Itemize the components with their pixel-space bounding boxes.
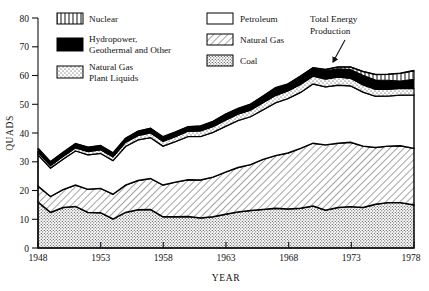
y-tick-label-30: 30 <box>20 157 30 167</box>
legend-label-nuclear: Nuclear <box>89 14 118 24</box>
annotation-line1: Total Energy <box>310 14 358 24</box>
x-tick-label-1973: 1973 <box>342 253 361 263</box>
x-tick-label-1948: 1948 <box>29 253 48 263</box>
x-tick-label-1958: 1958 <box>154 253 173 263</box>
legend-swatch-nuclear <box>57 13 83 24</box>
x-tick-label-1968: 1968 <box>279 253 298 263</box>
y-tick-label-70: 70 <box>20 42 30 52</box>
x-tick-label-1963: 1963 <box>217 253 236 263</box>
energy-production-area-chart: 80 70 60 50 40 30 20 10 0 QUADS 1948 195… <box>0 0 429 291</box>
y-axis-title: QUADS <box>5 115 15 151</box>
chart-figure: 80 70 60 50 40 30 20 10 0 QUADS 1948 195… <box>0 0 429 291</box>
legend-label-ngpl-line1: Natural Gas <box>89 62 134 72</box>
legend-label-petroleum: Petroleum <box>240 14 278 24</box>
legend-swatch-coal <box>207 55 233 66</box>
x-tick-label-1978: 1978 <box>402 253 421 263</box>
legend-swatch-natural-gas <box>207 34 233 45</box>
y-tick-label-40: 40 <box>20 129 30 139</box>
x-tick-label-1953: 1953 <box>91 253 110 263</box>
legend-label-ngpl-line2: Plant Liquids <box>89 73 139 83</box>
y-tick-label-60: 60 <box>20 71 30 81</box>
legend-label-hydropower-line1: Hydropower, <box>89 34 137 44</box>
y-tick-label-10: 10 <box>20 215 30 225</box>
legend-label-coal: Coal <box>240 56 258 66</box>
legend-label-natural-gas: Natural Gas <box>240 35 285 45</box>
y-tick-label-80: 80 <box>20 14 30 24</box>
legend-swatch-hydropower <box>57 38 83 51</box>
legend-swatch-ngpl <box>57 66 83 78</box>
y-tick-label-20: 20 <box>20 186 30 196</box>
x-axis-title: YEAR <box>212 273 240 283</box>
y-tick-label-50: 50 <box>20 100 30 110</box>
annotation-line2: Production <box>310 26 351 36</box>
legend-swatch-petroleum <box>207 13 233 24</box>
legend-label-hydropower-line2: Geothermal and Other <box>89 45 171 55</box>
y-tick-label-0: 0 <box>24 244 29 254</box>
